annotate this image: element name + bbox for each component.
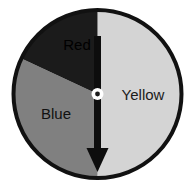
spinner-hub-inner	[95, 92, 100, 97]
spinner-figure: Red Blue Yellow	[0, 0, 193, 189]
spinner-wheel-graphic[interactable]: Red Blue Yellow	[0, 0, 193, 189]
sector-label-yellow: Yellow	[122, 86, 165, 103]
sector-label-red: Red	[63, 36, 91, 53]
sector-label-blue: Blue	[41, 105, 71, 122]
